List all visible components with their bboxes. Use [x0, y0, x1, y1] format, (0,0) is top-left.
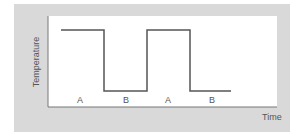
y-axis-label: Temperature — [31, 37, 41, 88]
segment-label: A — [77, 95, 83, 105]
segment-label: A — [165, 95, 171, 105]
square-wave-chart — [0, 0, 306, 136]
x-axis-label: Time — [262, 112, 282, 122]
segment-label: B — [123, 95, 129, 105]
segment-label: B — [209, 95, 215, 105]
temperature-line — [61, 30, 231, 91]
